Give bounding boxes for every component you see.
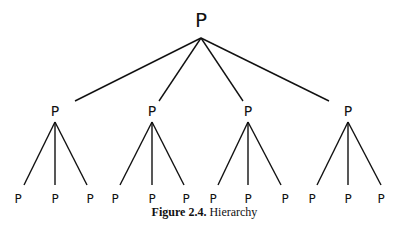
child-edge <box>120 122 152 185</box>
root-edge <box>159 38 201 101</box>
child-edge <box>317 122 348 185</box>
root-node: P <box>195 8 207 32</box>
figure-caption: Figure 2.4. Hierarchy <box>0 205 409 220</box>
child-node: P <box>51 103 59 119</box>
leaf-node: P <box>209 192 216 206</box>
hierarchy-figure: PPPPPPPPPPPPPPPPP Figure 2.4. Hierarchy <box>0 0 409 230</box>
root-edge <box>201 38 329 101</box>
leaf-node: P <box>51 192 58 206</box>
root-edge <box>75 38 201 101</box>
leaf-node: P <box>244 192 251 206</box>
leaf-node: P <box>148 192 155 206</box>
leaf-node: P <box>308 192 315 206</box>
hierarchy-tree: PPPPPPPPPPPPPPPPP <box>0 0 409 230</box>
leaf-node: P <box>111 192 118 206</box>
child-edge <box>24 122 55 185</box>
child-edge <box>218 122 248 185</box>
child-node: P <box>244 103 252 119</box>
leaf-node: P <box>182 192 189 206</box>
caption-label: Figure 2.4. <box>152 205 207 219</box>
child-edge <box>248 122 281 185</box>
caption-text: Hierarchy <box>209 205 257 219</box>
child-node: P <box>148 103 156 119</box>
child-edge <box>55 122 87 185</box>
leaf-node: P <box>281 192 288 206</box>
leaf-node: P <box>86 192 93 206</box>
child-node: P <box>344 103 352 119</box>
leaf-node: P <box>377 192 384 206</box>
leaf-node: P <box>14 192 21 206</box>
child-edge <box>348 122 381 185</box>
root-edge <box>201 38 243 101</box>
child-edge <box>152 122 184 185</box>
leaf-node: P <box>344 192 351 206</box>
